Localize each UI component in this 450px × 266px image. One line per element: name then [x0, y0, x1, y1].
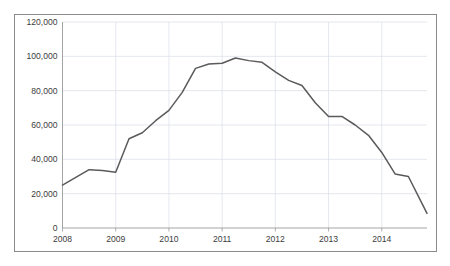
x-axis-tick-label: 2011 [213, 234, 232, 244]
y-axis-tick-label: 100,000 [26, 51, 57, 61]
x-axis-tick-label: 2008 [53, 234, 72, 244]
y-axis-tick-label: 20,000 [31, 189, 58, 199]
x-axis-tick-label: 2010 [159, 234, 178, 244]
data-line-series-1 [63, 58, 428, 213]
line-chart: 020,00040,00060,00080,000100,000120,000 … [0, 0, 450, 266]
x-axis-tick-label: 2013 [319, 234, 338, 244]
chart-screenshot: 020,00040,00060,00080,000100,000120,000 … [0, 0, 450, 266]
x-axis-tick-label: 2009 [106, 234, 125, 244]
y-axis-tick-labels: 020,00040,00060,00080,000100,000120,000 [26, 17, 57, 233]
y-axis-tick-label: 0 [53, 223, 58, 233]
tickmarks-group [63, 228, 382, 232]
y-axis-tick-label: 120,000 [26, 17, 57, 27]
data-series-group [63, 58, 428, 213]
gridlines-group [63, 22, 428, 228]
y-axis-tick-label: 40,000 [31, 154, 58, 164]
y-axis-tick-label: 80,000 [31, 86, 58, 96]
x-axis-tick-label: 2012 [266, 234, 285, 244]
y-axis-tick-label: 60,000 [31, 120, 58, 130]
x-axis-tick-label: 2014 [372, 234, 391, 244]
x-axis-tick-labels: 2008200920102011201220132014 [53, 234, 392, 244]
